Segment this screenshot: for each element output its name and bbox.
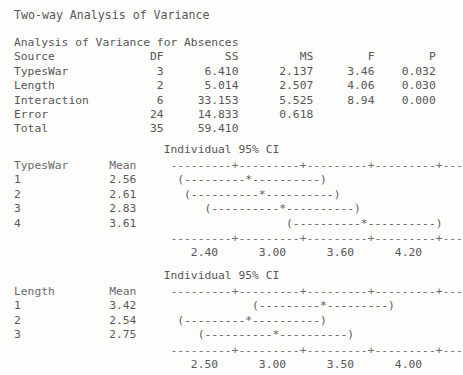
- table-row: Interaction 6 33.153 5.525 8.94 0.000: [14, 94, 436, 108]
- page-title: Two-way Analysis of Variance: [14, 8, 209, 22]
- typeswar-ci-tick-labels: 2.40 3.00 3.60 4.20: [14, 246, 422, 260]
- list-item: 3 2.83 (----------*----------): [14, 202, 361, 216]
- list-item: 1 2.56 (---------*----------): [14, 173, 327, 187]
- length-ci-tick-labels: 2.50 3.00 3.50 4.00: [14, 358, 422, 372]
- table-row: Length 2 5.014 2.507 4.06 0.030: [14, 79, 436, 93]
- anova-table-header: Source DF SS MS F P: [14, 50, 436, 64]
- anova-caption: Analysis of Variance for Absences: [14, 36, 238, 50]
- length-ci-axis: ---------+---------+---------+---------+…: [14, 344, 463, 358]
- table-row: Error 24 14.833 0.618: [14, 108, 313, 122]
- table-row: Total 35 59.410: [14, 122, 238, 136]
- length-ci-heading: Individual 95% CI: [14, 269, 279, 283]
- list-item: 4 3.61 (----------*----------): [14, 217, 442, 231]
- list-item: 2 2.54 (---------*----------): [14, 314, 327, 328]
- typeswar-ci-axis: ---------+---------+---------+---------+…: [14, 232, 463, 246]
- typeswar-ci-header-axis: TypesWar Mean ---------+---------+------…: [14, 159, 463, 173]
- list-item: 1 3.42 (---------*---------): [14, 299, 395, 313]
- list-item: 3 2.75 (----------*----------): [14, 328, 354, 342]
- table-row: TypesWar 3 6.410 2.137 3.46 0.032: [14, 65, 436, 79]
- typeswar-ci-heading: Individual 95% CI: [14, 143, 279, 157]
- length-ci-header-axis: Length Mean ---------+---------+--------…: [14, 285, 463, 299]
- list-item: 2 2.61 (----------*----------): [14, 188, 340, 202]
